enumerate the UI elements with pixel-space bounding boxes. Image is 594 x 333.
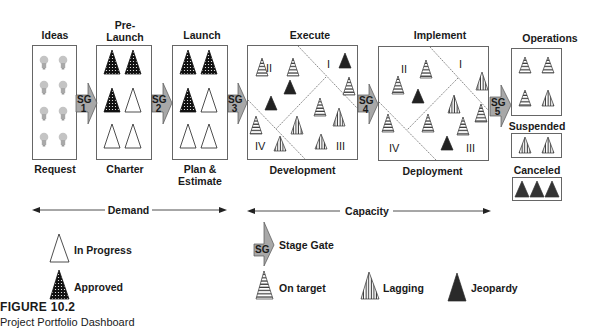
legend-sg-text: SG: [255, 244, 269, 255]
legend-jeopardy: Jeopardy: [471, 282, 518, 294]
jeopardy-icon: [448, 273, 466, 301]
legend-on-target: On target: [279, 282, 326, 294]
on-target-icon: [256, 271, 273, 299]
figure-subtitle: Project Portfolio Dashboard: [0, 316, 135, 328]
in-progress-icon: [50, 234, 69, 262]
legend-lagging: Lagging: [383, 282, 424, 294]
legend-approved: Approved: [74, 281, 123, 293]
lagging-icon: [361, 272, 379, 299]
legend-in-progress: In Progress: [74, 244, 132, 256]
legend-stage-gate: Stage Gate: [279, 239, 334, 251]
approved-icon: [50, 270, 69, 299]
figure-title: FIGURE 10.2: [0, 300, 75, 314]
